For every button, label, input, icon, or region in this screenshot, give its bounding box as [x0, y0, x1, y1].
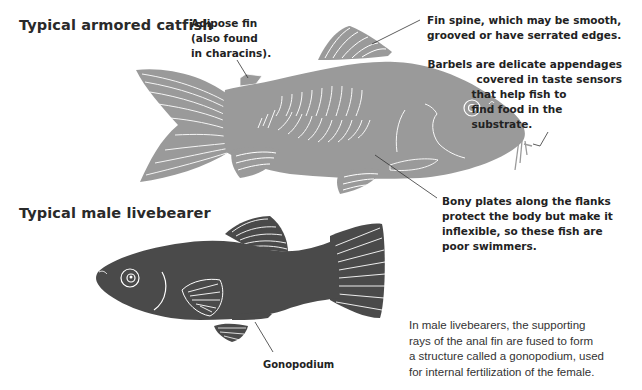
livebearer-tail-fin [330, 224, 385, 318]
leader-adipose-fin [237, 60, 248, 78]
leader-barbels [533, 132, 548, 146]
leader-fin-spine [372, 20, 420, 44]
annotation-barbels: Barbels are delicate appendages covered … [427, 57, 622, 132]
leader-gonopodium [255, 322, 273, 352]
livebearer-caption: In male livebearers, the supporting rays… [409, 318, 604, 380]
livebearer-section-title: Typical male livebearer [19, 205, 211, 221]
catfish-section-title: Typical armored catfish [19, 17, 213, 33]
annotation-gonopodium: Gonopodium [263, 357, 334, 372]
annotation-fin-spine: Fin spine, which may be smooth, grooved … [427, 13, 621, 43]
male-livebearer-illustration [96, 216, 385, 342]
annotation-adipose-fin: Adipose fin (also found in characins). [191, 16, 271, 61]
annotation-bony-plates: Bony plates along the flanks protect the… [442, 194, 613, 254]
